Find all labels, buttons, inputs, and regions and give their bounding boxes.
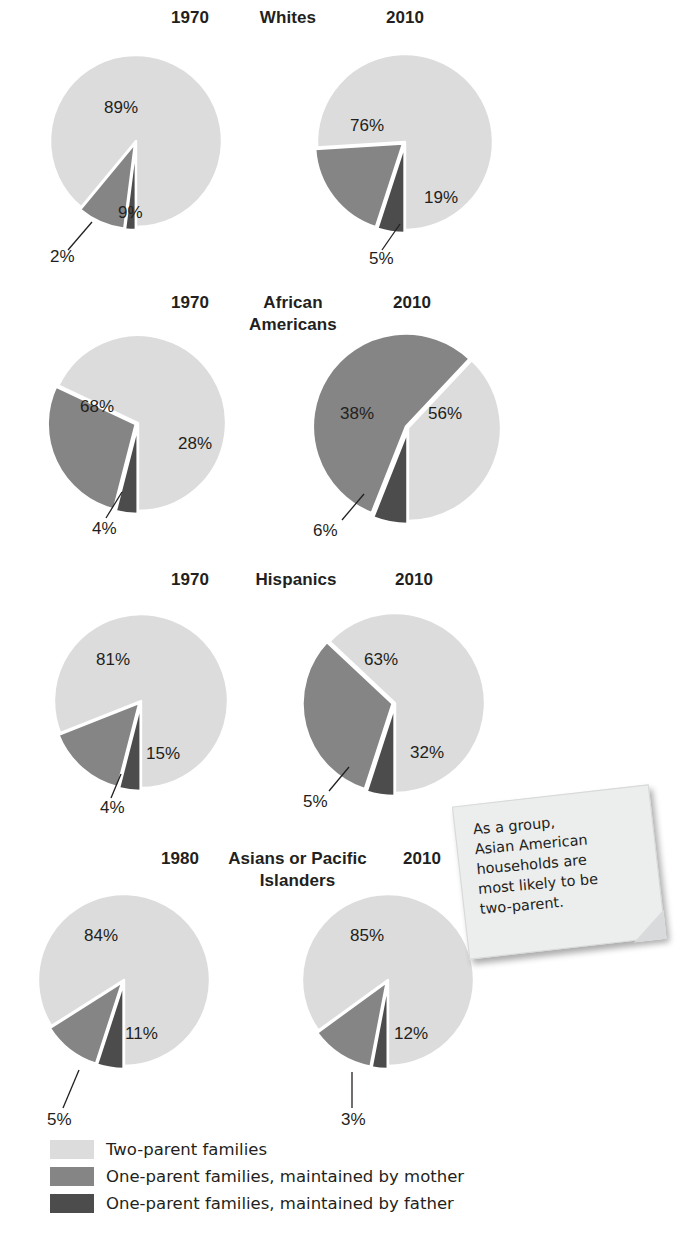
label-hisp-1970-two-parent: 81% [96, 650, 130, 670]
pie-svg [300, 888, 476, 1072]
label-aa-1970-mother: 28% [178, 434, 212, 454]
leader-whites-1970-father [60, 220, 100, 254]
legend-label-two-parent: Two-parent families [106, 1140, 267, 1159]
leader-hisp-2010-father [325, 765, 359, 795]
label-hisp-2010-two-parent: 63% [364, 650, 398, 670]
row-3-group-title: Hispanics [226, 569, 366, 590]
pie-svg [52, 608, 230, 794]
leader-asian-2010-father [348, 1070, 370, 1110]
legend: Two-parent families One-parent families,… [50, 1136, 464, 1217]
label-asian-1980-two-parent: 84% [84, 926, 118, 946]
legend-label-mother: One-parent families, maintained by mothe… [106, 1167, 464, 1186]
row-4-right-year: 2010 [382, 848, 462, 869]
label-asian-2010-mother: 12% [394, 1024, 428, 1044]
label-asian-1980-father: 5% [47, 1110, 72, 1130]
pie-hispanics-1970 [52, 608, 230, 794]
label-asian-1980-mother: 11% [125, 1024, 158, 1044]
legend-item-mother: One-parent families, maintained by mothe… [50, 1163, 464, 1190]
chart-canvas: 1970 Whites 2010 89% 9% 2% 76% 19% 5% 19… [0, 0, 686, 1241]
label-asian-2010-two-parent: 85% [350, 926, 384, 946]
legend-swatch-father [50, 1194, 94, 1213]
label-aa-1970-two-parent: 68% [80, 397, 114, 417]
row-2-right-year: 2010 [372, 292, 452, 313]
label-aa-1970-father: 4% [92, 519, 117, 539]
legend-item-father: One-parent families, maintained by fathe… [50, 1190, 464, 1217]
label-whites-2010-mother: 19% [424, 188, 458, 208]
pie-svg [315, 48, 495, 236]
row-1-left-year: 1970 [150, 7, 230, 28]
leader-hisp-1970-father [105, 772, 135, 800]
pie-asians-1980 [36, 888, 212, 1072]
legend-label-father: One-parent families, maintained by fathe… [106, 1194, 454, 1213]
pie-svg [36, 888, 212, 1072]
legend-swatch-mother [50, 1167, 94, 1186]
row-3-left-year: 1970 [150, 569, 230, 590]
row-1-right-year: 2010 [365, 7, 445, 28]
leader-asian-1980-father [57, 1068, 89, 1110]
label-hisp-1970-father: 4% [100, 798, 125, 818]
pie-asians-2010 [300, 888, 476, 1072]
label-whites-2010-father: 5% [369, 249, 394, 269]
label-whites-1970-two-parent: 89% [104, 98, 138, 118]
leader-aa-1970-father [100, 490, 134, 520]
label-hisp-2010-father: 5% [303, 792, 328, 812]
label-asian-2010-father: 3% [341, 1110, 366, 1130]
leader-aa-2010-father [338, 492, 374, 524]
label-hisp-2010-mother: 32% [410, 743, 444, 763]
legend-swatch-two-parent [50, 1140, 94, 1159]
callout-sticky-note: As a group, Asian American households ar… [452, 784, 666, 959]
pie-svg [48, 330, 228, 516]
row-1-group-title: Whites [228, 7, 348, 28]
leader-whites-2010-father [378, 222, 412, 252]
label-aa-2010-father: 6% [313, 521, 338, 541]
label-aa-2010-two-parent: 38% [340, 404, 374, 424]
row-4-left-year: 1980 [140, 848, 220, 869]
legend-item-two-parent: Two-parent families [50, 1136, 464, 1163]
label-whites-1970-mother: 9% [118, 203, 143, 223]
row-2-group-title-line1: African [218, 292, 368, 313]
pie-african-americans-1970 [48, 330, 228, 516]
row-4-group-title-line1: Asians or Pacific [210, 848, 385, 869]
pie-whites-2010 [315, 48, 495, 236]
callout-text: As a group, Asian American households ar… [455, 788, 664, 957]
row-3-right-year: 2010 [374, 569, 454, 590]
label-whites-2010-two-parent: 76% [350, 116, 384, 136]
label-aa-2010-mother: 56% [428, 404, 462, 424]
label-hisp-1970-mother: 15% [146, 744, 180, 764]
